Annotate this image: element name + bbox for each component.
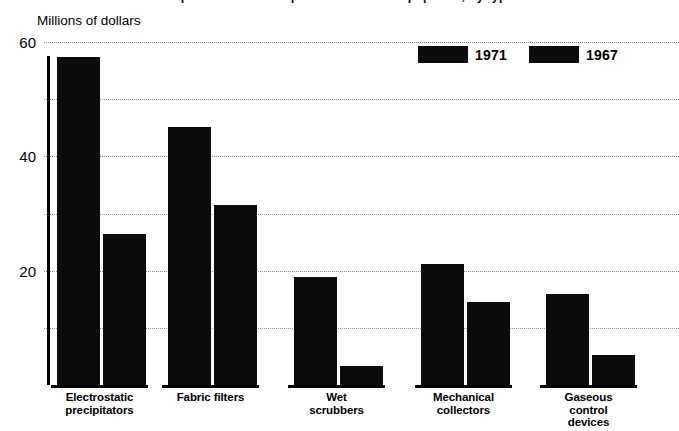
category-baseline	[540, 385, 637, 388]
chart-figure: Expenditures for air pollution control e…	[0, 0, 679, 431]
bar	[467, 302, 510, 385]
category-label-line: Electrostatic	[39, 391, 160, 404]
legend-swatch-1971	[418, 46, 468, 63]
category-label: Gaseouscontroldevices	[528, 391, 649, 429]
category-label: Mechanicalcollectors	[403, 391, 524, 416]
category-label-line: Mechanical	[403, 391, 524, 404]
category-baseline	[415, 385, 512, 388]
legend-swatch-1967	[529, 46, 579, 63]
bar	[168, 127, 211, 385]
category-label: Fabric filters	[150, 391, 271, 404]
category-baseline	[162, 385, 259, 388]
bar	[340, 366, 383, 385]
category-label-line: collectors	[403, 404, 524, 417]
category-label-line: Fabric filters	[150, 391, 271, 404]
bar	[592, 355, 635, 385]
category-label-line: Gaseous	[528, 391, 649, 404]
category-label-line: precipitators	[39, 404, 160, 417]
bar	[214, 205, 257, 385]
category-label-line: control	[528, 404, 649, 417]
legend-item-1967[interactable]: 1967	[529, 46, 618, 63]
bar	[103, 234, 146, 385]
legend-label-1971: 1971	[475, 47, 507, 63]
category-baseline	[288, 385, 385, 388]
bar	[421, 264, 464, 385]
plot-area: ElectrostaticprecipitatorsFabric filters…	[0, 0, 679, 431]
legend-label-1967: 1967	[586, 47, 618, 63]
bar	[546, 294, 589, 385]
bar	[57, 57, 100, 385]
category-label: Wetscrubbers	[276, 391, 397, 416]
category-label-line: Wet	[276, 391, 397, 404]
category-label-line: devices	[528, 416, 649, 429]
legend-item-1971[interactable]: 1971	[418, 46, 507, 63]
bar	[294, 277, 337, 385]
category-label-line: scrubbers	[276, 404, 397, 417]
category-baseline	[51, 385, 148, 388]
chart-legend: 1971 1967	[418, 46, 618, 63]
category-label: Electrostaticprecipitators	[39, 391, 160, 416]
